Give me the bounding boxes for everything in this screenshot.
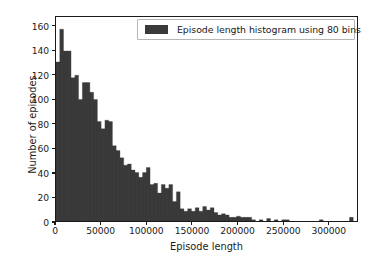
x-axis-tick-3: 150000	[175, 225, 209, 236]
x-axis-tick-1: 50000	[86, 225, 115, 236]
legend-label: Episode length histogram using 80 bins	[177, 24, 361, 35]
x-axis-tick-5: 250000	[266, 225, 300, 236]
y-axis-tick-3: 60	[38, 143, 50, 154]
x-axis-tick-0: 0	[52, 225, 58, 236]
y-axis-tick-labels: 020406080100120140160	[0, 0, 49, 263]
y-axis-tickmark-3	[52, 148, 56, 149]
x-axis-tickmark-5	[283, 221, 284, 225]
x-axis-tickmark-4	[237, 221, 238, 225]
y-axis-tick-8: 160	[32, 20, 49, 31]
y-axis-tickmark-5	[52, 99, 56, 100]
y-axis-tick-2: 40	[38, 167, 50, 178]
x-axis-tickmark-6	[328, 221, 329, 225]
legend-color-swatch	[145, 25, 168, 34]
y-axis-label: Number of episodes	[27, 40, 38, 210]
x-axis-tickmark-1	[100, 221, 101, 225]
y-axis-tickmark-1	[52, 197, 56, 198]
x-axis-tickmark-0	[54, 221, 55, 225]
x-axis-label: Episode length	[55, 241, 358, 252]
y-axis-tickmark-8	[52, 25, 56, 26]
x-axis-tick-2: 100000	[129, 225, 163, 236]
plot-area	[55, 16, 358, 222]
x-axis-tickmark-3	[191, 221, 192, 225]
histogram-bars	[56, 17, 357, 221]
y-axis-tickmark-2	[52, 172, 56, 173]
y-axis-tick-0: 0	[43, 217, 49, 228]
histogram-figure: 020406080100120140160 Number of episodes…	[0, 0, 372, 263]
chart-legend: Episode length histogram using 80 bins	[137, 19, 355, 40]
y-axis-tickmark-6	[52, 74, 56, 75]
y-axis-tick-4: 80	[38, 118, 50, 129]
x-axis-tick-6: 300000	[312, 225, 346, 236]
x-axis-tickmark-2	[146, 221, 147, 225]
y-axis-tickmark-7	[52, 50, 56, 51]
y-axis-tickmark-4	[52, 123, 56, 124]
y-axis-tick-1: 20	[38, 192, 50, 203]
x-axis-tick-4: 200000	[220, 225, 254, 236]
